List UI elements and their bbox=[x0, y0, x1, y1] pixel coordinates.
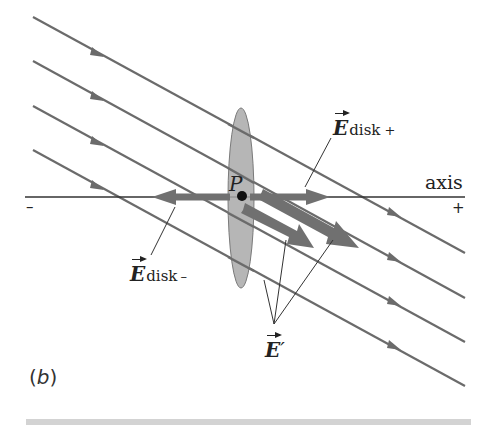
e-symbol: E bbox=[130, 264, 145, 284]
point-p-label: P bbox=[229, 174, 242, 194]
leader-e-disk-plus bbox=[305, 138, 331, 187]
bottom-divider bbox=[26, 419, 471, 425]
arrowhead-icon bbox=[90, 136, 104, 146]
leader-e-prime-a bbox=[264, 280, 274, 324]
subscript-disk: disk bbox=[146, 267, 177, 285]
axis-plus-sign: + bbox=[452, 201, 465, 216]
field-direction-arrowheads-right bbox=[387, 207, 401, 350]
paren-close: ) bbox=[50, 365, 58, 389]
axis-minus-sign: – bbox=[26, 200, 34, 215]
arrowhead-icon bbox=[387, 252, 401, 262]
e-symbol: E bbox=[333, 118, 348, 138]
arrowhead-icon bbox=[90, 47, 104, 57]
axis-label: axis bbox=[425, 173, 463, 192]
arrowhead-icon bbox=[387, 340, 401, 350]
arrowhead-icon bbox=[387, 296, 401, 306]
panel-label: (b) bbox=[29, 367, 57, 387]
e-disk-plus-label: Edisk+ bbox=[333, 118, 395, 138]
e-prime-label: E′ bbox=[265, 340, 285, 360]
field-direction-arrowheads-left bbox=[90, 47, 104, 190]
e-disk-minus-label: Edisk– bbox=[130, 264, 187, 284]
arrowhead-icon bbox=[90, 180, 104, 190]
prime-mark: ′ bbox=[280, 338, 285, 362]
subscript-sign: – bbox=[180, 269, 187, 284]
paren-open: ( bbox=[29, 365, 37, 389]
arrowhead-icon bbox=[90, 91, 104, 101]
subscript-sign: + bbox=[384, 123, 395, 138]
e-symbol: E bbox=[265, 340, 280, 360]
subscript-disk: disk bbox=[349, 121, 380, 139]
arrowhead-icon bbox=[387, 207, 401, 217]
leader-e-disk-minus bbox=[151, 207, 175, 255]
disk-field-diagram bbox=[0, 0, 491, 427]
panel-letter: b bbox=[37, 365, 50, 389]
